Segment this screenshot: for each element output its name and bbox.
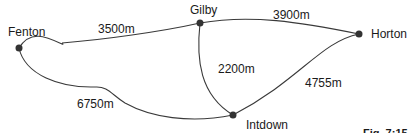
edge-label-gilby-intdown: 2200m (218, 62, 255, 76)
node-label-horton: Horton (371, 27, 407, 41)
edge-label-horton-intdown: 4755m (305, 76, 342, 90)
node-gilby (197, 20, 204, 27)
node-fenton (16, 45, 23, 52)
route-network-diagram: Fenton Gilby Horton Intdown 3500m 3900m … (0, 0, 408, 133)
edge-fenton-intdown (19, 48, 233, 119)
figure-caption: Fig. 7:15 (363, 127, 408, 133)
node-label-gilby: Gilby (190, 3, 217, 17)
edge-label-fenton-intdown: 6750m (77, 97, 114, 111)
node-intdown (230, 112, 237, 119)
node-horton (356, 31, 363, 38)
node-label-intdown: Intdown (246, 118, 288, 132)
node-label-fenton: Fenton (8, 25, 45, 39)
edge-label-fenton-gilby: 3500m (98, 22, 135, 36)
edge-label-gilby-horton: 3900m (273, 8, 310, 22)
